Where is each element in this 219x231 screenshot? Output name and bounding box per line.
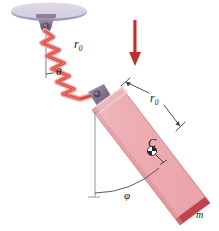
- figure-canvas: r0 θ r0 C φ m: [0, 0, 219, 231]
- mass-label: m: [196, 210, 203, 220]
- center-of-mass-label: C: [148, 137, 156, 149]
- coil-spring: [42, 31, 90, 99]
- spring-angle-label: θ: [56, 66, 61, 77]
- bar-length-label: r0: [150, 92, 158, 107]
- bar-angle-label: φ: [124, 190, 130, 201]
- diagram-svg: [0, 0, 219, 231]
- gravity-direction-arrow: [129, 20, 141, 66]
- spring-length-label: r0: [74, 38, 82, 53]
